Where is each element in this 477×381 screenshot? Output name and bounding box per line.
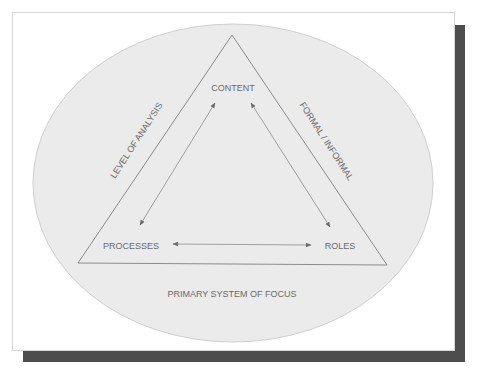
- node-roles: ROLES: [325, 241, 356, 251]
- node-content: CONTENT: [211, 83, 255, 93]
- diagram-canvas: CONTENT PROCESSES ROLES LEVEL OF ANALYSI…: [0, 0, 477, 381]
- label-primary-system-of-focus: PRIMARY SYSTEM OF FOCUS: [167, 289, 296, 299]
- figure-stage: CONTENT PROCESSES ROLES LEVEL OF ANALYSI…: [0, 0, 477, 381]
- node-processes: PROCESSES: [103, 241, 159, 251]
